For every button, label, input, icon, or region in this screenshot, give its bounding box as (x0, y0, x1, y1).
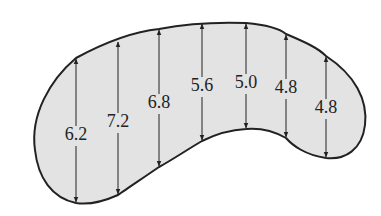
measurement-label: 4.8 (315, 97, 338, 117)
region-diagram: 6.27.26.85.65.04.84.8 (0, 0, 381, 216)
measurement-label: 6.8 (148, 92, 171, 112)
measurement-label: 5.6 (191, 75, 214, 95)
measurement-label: 5.0 (235, 72, 258, 92)
measurement-label: 6.2 (65, 124, 88, 144)
measurement-label: 7.2 (107, 111, 130, 131)
measurement-label: 4.8 (275, 77, 298, 97)
